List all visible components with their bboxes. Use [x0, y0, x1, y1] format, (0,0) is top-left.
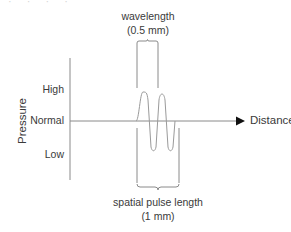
spatial-pulse-length-value: (1 mm) — [108, 210, 208, 222]
spatial-pulse-length-label: spatial pulse length — [108, 196, 208, 208]
y-axis-title: Pressure — [16, 98, 28, 144]
arrow-head-icon — [236, 117, 245, 126]
level-normal-label: Normal — [30, 114, 64, 126]
wavelength-value: (0.5 mm) — [118, 24, 178, 36]
wavelength-brace — [137, 40, 158, 44]
level-high-label: High — [42, 83, 64, 95]
level-low-label: Low — [45, 148, 64, 160]
wavelength-label: wavelength — [118, 10, 178, 22]
pulse-length-brace — [137, 184, 179, 190]
x-axis-title: Distance — [250, 114, 291, 126]
